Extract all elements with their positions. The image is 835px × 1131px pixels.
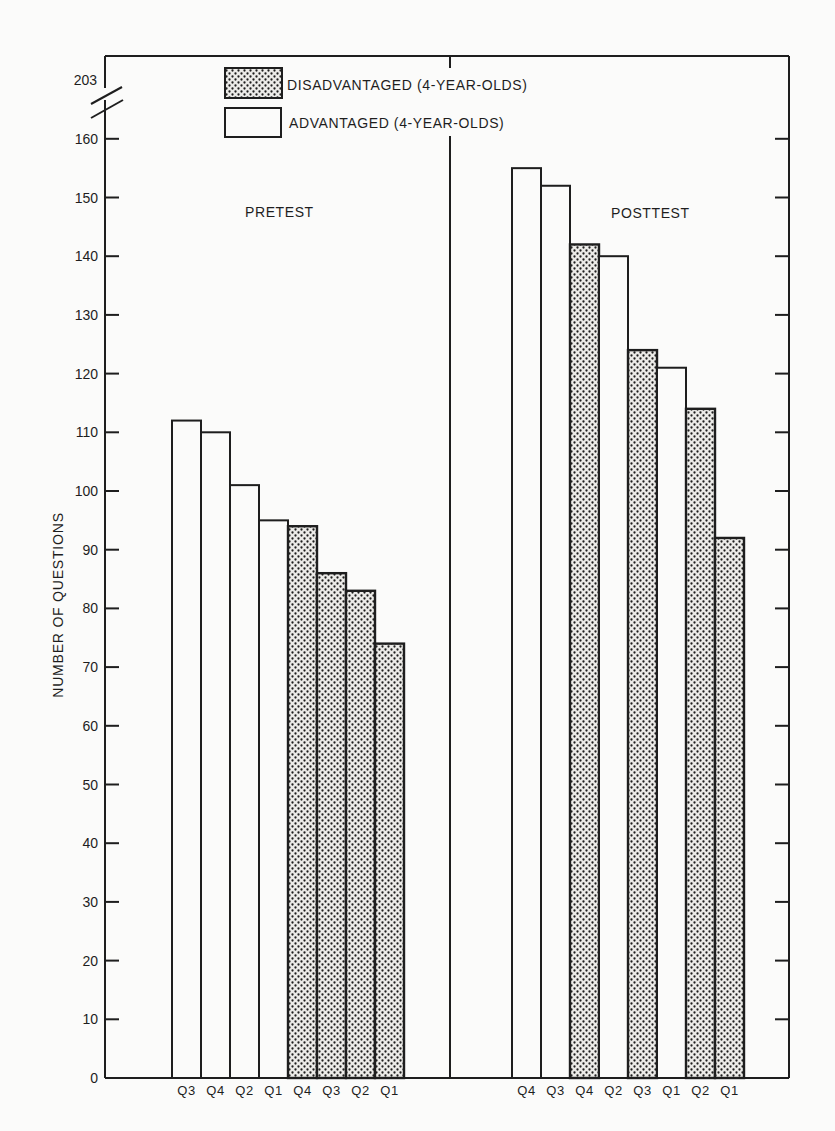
y-tick-label: 120 [75, 366, 99, 382]
bar-chart: 2030102030405060708090100110120130140150… [0, 0, 835, 1131]
y-tick-label: 70 [82, 659, 98, 675]
y-tick-label: 90 [82, 542, 98, 558]
legend-label-disadvantaged: DISADVANTAGED (4-YEAR-OLDS) [287, 77, 528, 93]
bar-pretest-disadvantaged-q2 [346, 591, 375, 1078]
bar-pretest-advantaged-q2 [230, 485, 259, 1078]
panel-label-pretest: PRETEST [245, 204, 314, 220]
y-tick-label: 100 [75, 483, 99, 499]
bar-pretest-advantaged-q4 [201, 432, 230, 1078]
x-category-label: Q4 [575, 1083, 593, 1098]
x-category-label: Q2 [604, 1083, 622, 1098]
y-tick-label: 40 [82, 835, 98, 851]
bar-posttest-advantaged-q1 [657, 368, 686, 1078]
y-tick-label: 110 [76, 424, 99, 440]
y-tick-label: 0 [90, 1070, 98, 1086]
y-tick-label: 20 [82, 953, 98, 969]
y-tick-label: 10 [82, 1011, 98, 1027]
bar-posttest-advantaged-q3 [541, 186, 570, 1078]
bar-pretest-advantaged-q3 [172, 421, 201, 1078]
y-tick-label: 50 [82, 777, 98, 793]
bar-pretest-advantaged-q1 [259, 520, 288, 1078]
bar-posttest-disadvantaged-q4 [570, 244, 599, 1078]
y-tick-label: 80 [82, 600, 98, 616]
panel-label-posttest: POSTTEST [611, 205, 690, 221]
y-tick-label: 150 [75, 190, 99, 206]
axis-break-mark [91, 100, 123, 118]
x-category-label: Q4 [517, 1083, 535, 1098]
bar-pretest-disadvantaged-q3 [317, 573, 346, 1078]
x-category-label: Q1 [380, 1083, 398, 1098]
y-break-label: 203 [74, 72, 98, 88]
x-category-label: Q1 [662, 1083, 680, 1098]
x-category-label: Q2 [235, 1083, 253, 1098]
y-tick-label: 130 [75, 307, 99, 323]
y-tick-label: 140 [75, 248, 99, 264]
x-category-label: Q2 [691, 1083, 709, 1098]
x-category-label: Q4 [206, 1083, 224, 1098]
y-tick-label: 30 [82, 894, 98, 910]
axis-break-mark [91, 87, 122, 104]
y-tick-label: 160 [75, 131, 99, 147]
bar-pretest-disadvantaged-q4 [288, 526, 317, 1078]
bar-pretest-disadvantaged-q1 [375, 644, 404, 1078]
x-category-label: Q3 [322, 1083, 340, 1098]
bar-posttest-disadvantaged-q2 [686, 409, 715, 1078]
x-category-label: Q3 [546, 1083, 564, 1098]
y-tick-label: 60 [82, 718, 98, 734]
legend-swatch-advantaged [225, 108, 281, 137]
legend: DISADVANTAGED (4-YEAR-OLDS) ADVANTAGED (… [225, 68, 528, 137]
x-category-label: Q4 [293, 1083, 311, 1098]
legend-swatch-disadvantaged [225, 68, 282, 98]
bar-posttest-advantaged-q4 [512, 168, 541, 1078]
x-category-label: Q1 [720, 1083, 738, 1098]
x-category-label: Q1 [264, 1083, 282, 1098]
x-axis-labels: Q3Q4Q2Q1Q4Q3Q2Q1Q4Q3Q4Q2Q3Q1Q2Q1 [177, 1083, 738, 1098]
x-category-label: Q2 [351, 1083, 369, 1098]
legend-label-advantaged: ADVANTAGED (4-YEAR-OLDS) [289, 115, 504, 131]
x-category-label: Q3 [177, 1083, 195, 1098]
bar-posttest-advantaged-q2 [599, 256, 628, 1078]
x-category-label: Q3 [633, 1083, 651, 1098]
bar-posttest-disadvantaged-q3 [628, 350, 657, 1078]
bar-posttest-disadvantaged-q1 [715, 538, 744, 1078]
bars [172, 168, 744, 1078]
y-axis-title: NUMBER OF QUESTIONS [50, 512, 66, 698]
